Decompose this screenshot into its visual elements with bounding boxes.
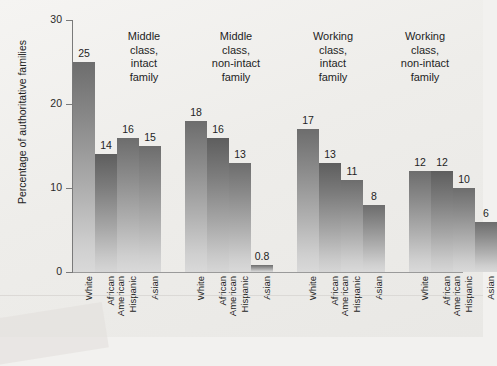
xtick-label: Asian <box>374 276 384 300</box>
xtick-g1-hispanic: Hispanic <box>229 276 251 336</box>
x-axis-baseline <box>72 272 463 273</box>
bar-value-label: 16 <box>212 124 224 135</box>
y-tick-20-mark <box>66 104 73 105</box>
bar-value-label: 17 <box>302 115 314 126</box>
bar-g3-white[interactable]: 12 <box>409 171 431 272</box>
bar-value-label: 25 <box>78 48 90 59</box>
bar-value-label: 15 <box>144 132 156 143</box>
bar-g3-hispanic[interactable]: 10 <box>453 188 475 272</box>
xtick-g3-asian: Asian <box>475 276 497 336</box>
xtick-g3-hispanic: Hispanic <box>453 276 475 336</box>
bar-value-label: 11 <box>347 166 358 177</box>
bar-g1-white[interactable]: 18 <box>185 121 207 272</box>
scan-artifact-corner <box>0 302 109 366</box>
bar-g2-african-american[interactable]: 13 <box>319 163 341 272</box>
xtick-label: White <box>196 276 206 300</box>
bar-value-label: 14 <box>100 140 112 151</box>
bar-value-label: 13 <box>324 149 336 160</box>
y-tick-label-20: 20 <box>34 98 62 109</box>
y-tick-10-mark <box>66 188 73 189</box>
bar-value-label: 0.8 <box>255 251 270 262</box>
xtick-g0-asian: Asian <box>139 276 161 336</box>
y-tick-30-mark <box>66 20 73 21</box>
xtick-label: Asian <box>150 276 160 300</box>
y-tick-label-30: 30 <box>34 14 62 25</box>
bar-value-label: 12 <box>436 157 448 168</box>
xtick-g2-white: White <box>297 276 319 336</box>
bar-value-label: 16 <box>122 124 134 135</box>
y-tick-label-0: 0 <box>34 266 62 277</box>
xtick-g2-hispanic: Hispanic <box>341 276 363 336</box>
bar-g1-african-american[interactable]: 16 <box>207 138 229 272</box>
bar-g2-asian[interactable]: 8 <box>363 205 385 272</box>
xtick-label: Asian <box>486 276 496 300</box>
bar-g2-hispanic[interactable]: 11 <box>341 180 363 272</box>
scan-artifact-line <box>0 295 483 296</box>
bar-g3-asian[interactable]: 6 <box>475 222 497 272</box>
xtick-g3-african-american: African American <box>431 276 453 336</box>
bar-g1-asian[interactable]: 0.8 <box>251 265 273 272</box>
bar-g0-asian[interactable]: 15 <box>139 146 161 272</box>
xtick-g1-white: White <box>185 276 207 336</box>
bar-g0-white[interactable]: 25 <box>73 62 95 272</box>
y-axis-title: Percentage of authoritative families <box>16 2 28 242</box>
bar-value-label: 10 <box>458 174 470 185</box>
xtick-label: White <box>420 276 430 300</box>
bar-g0-hispanic[interactable]: 16 <box>117 138 139 272</box>
xtick-g3-white: White <box>409 276 431 336</box>
xtick-label: Asian <box>262 276 272 300</box>
y-tick-label-10: 10 <box>34 182 62 193</box>
bar-value-label: 6 <box>483 208 489 219</box>
xtick-g1-african-american: African American <box>207 276 229 336</box>
y-tick-0-mark <box>66 272 73 273</box>
bar-value-label: 12 <box>414 157 426 168</box>
xtick-g1-asian: Asian <box>251 276 273 336</box>
bar-value-label: 13 <box>234 149 246 160</box>
bar-value-label: 18 <box>190 107 202 118</box>
xtick-g2-asian: Asian <box>363 276 385 336</box>
xtick-g0-hispanic: Hispanic <box>117 276 139 336</box>
bar-value-label: 8 <box>371 191 377 202</box>
bar-g3-african-american[interactable]: 12 <box>431 171 453 272</box>
xtick-label: White <box>84 276 94 300</box>
plot-area: 25 14 16 15 18 16 13 0.8 17 13 11 8 12 1… <box>73 20 463 272</box>
bar-g2-white[interactable]: 17 <box>297 129 319 272</box>
bar-g0-african-american[interactable]: 14 <box>95 154 117 272</box>
xtick-g2-african-american: African American <box>319 276 341 336</box>
xtick-label: White <box>308 276 318 300</box>
bar-g1-hispanic[interactable]: 13 <box>229 163 251 272</box>
